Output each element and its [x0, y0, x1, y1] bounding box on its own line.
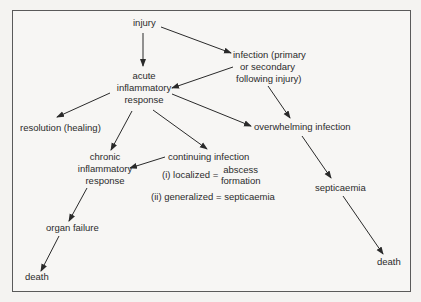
node-death-left: death	[25, 271, 49, 283]
localized-result: abscess formation	[221, 164, 261, 186]
node-chronic-line2: inflammatory	[72, 163, 138, 175]
node-infection-line3: following injury)	[236, 73, 306, 85]
localized-result-line1: abscess	[221, 164, 261, 175]
node-infection-line2: or secondary	[240, 61, 306, 73]
arrow-overwhelming-to-septicaemia	[302, 136, 331, 178]
arrow-injury-to-infection	[161, 27, 231, 53]
node-resolution: resolution (healing)	[20, 122, 101, 134]
continuing-localized: (i) localized = abscess formation	[162, 164, 260, 186]
arrow-acute-to-chronic	[111, 111, 132, 150]
node-acute-inflammatory-response: acute inflammatory response	[113, 70, 175, 106]
arrow-septicaemia-to-death	[343, 196, 383, 254]
node-organ-failure: organ failure	[46, 222, 99, 234]
node-acute-line3: response	[113, 94, 175, 106]
node-infection: infection (primary or secondary followin…	[233, 49, 306, 85]
node-septicaemia: septicaemia	[315, 182, 366, 194]
node-chronic-line3: response	[72, 175, 138, 187]
node-chronic-inflammatory-response: chronic inflammatory response	[72, 151, 138, 187]
localized-result-line2: formation	[221, 175, 261, 186]
arrow-acute-to-overwhelming	[172, 94, 251, 126]
node-death-right: death	[377, 256, 401, 268]
localized-label: (i) localized =	[162, 169, 218, 180]
node-overwhelming-infection: overwhelming infection	[254, 121, 351, 133]
arrow-infection-to-acute	[172, 67, 233, 88]
arrow-organ-failure-to-death	[41, 236, 59, 271]
arrow-chronic-to-organ-failure	[69, 188, 87, 221]
arrow-acute-to-continuing	[153, 110, 207, 149]
node-injury: injury	[133, 17, 156, 29]
arrow-infection-to-overwhelming	[268, 86, 290, 118]
arrow-acute-to-resolution	[57, 93, 110, 117]
node-acute-line1: acute	[113, 70, 175, 82]
node-acute-line2: inflammatory	[113, 82, 175, 94]
node-continuing-infection: continuing infection	[168, 151, 249, 163]
continuing-generalized: (ii) generalized = septicaemia	[151, 191, 275, 203]
node-infection-line1: infection (primary	[233, 49, 306, 61]
node-chronic-line1: chronic	[72, 151, 138, 163]
